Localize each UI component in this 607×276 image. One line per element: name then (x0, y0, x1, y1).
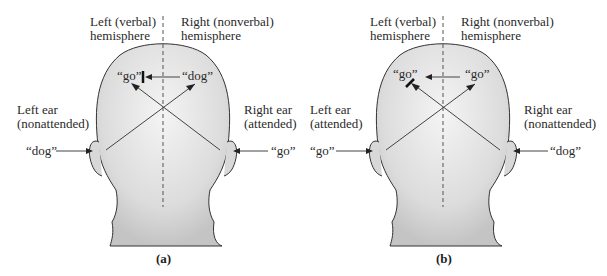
left-hemisphere-word: “go” (393, 66, 418, 82)
caption-a: (a) (156, 251, 171, 267)
left-ear-label: Left ear (nonattended) (17, 103, 89, 131)
caption-b: (b) (436, 251, 452, 267)
right-hemisphere-label: Right (nonverbal) hemisphere (181, 15, 274, 43)
panel-b: Left (verbal) hemisphere Right (nonverba… (280, 0, 583, 276)
left-hemisphere-label: Left (verbal) hemisphere (370, 15, 436, 43)
left-hemisphere-label: Left (verbal) hemisphere (90, 15, 156, 43)
right-hemisphere-label: Right (nonverbal) hemisphere (461, 15, 554, 43)
left-hemisphere-word: “go” (117, 68, 142, 84)
right-hemisphere-word: “go” (465, 66, 490, 82)
left-ear-input-word: “dog” (26, 143, 57, 159)
panel-a: Left (verbal) hemisphere Right (nonverba… (0, 0, 303, 276)
right-ear-label: Right ear (nonattended) (524, 103, 596, 131)
left-ear-input-word: “go” (310, 143, 335, 159)
right-hemisphere-word: “dog” (182, 68, 213, 84)
right-ear-input-word: “dog” (550, 143, 581, 159)
left-ear-label: Left ear (attended) (310, 103, 363, 131)
